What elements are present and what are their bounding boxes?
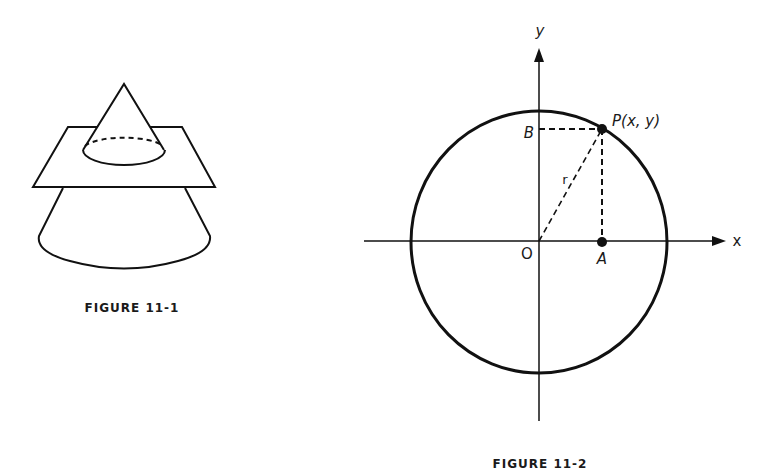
figure-11-2: y x O A B P(x, y) r FIGURE 11-2: [364, 22, 742, 471]
point-a-dot: [597, 237, 607, 247]
radius-label: r: [562, 172, 568, 187]
radius-line-op: [539, 129, 602, 241]
figure-caption: FIGURE 11-1: [85, 301, 180, 315]
point-p-label: P(x, y): [612, 112, 660, 130]
y-axis-label: y: [535, 22, 546, 40]
point-p-dot: [597, 124, 607, 134]
figure-11-1: FIGURE 11-1: [33, 84, 215, 315]
page-canvas: FIGURE 11-1 y x O A B P(x, y) r FIGURE 1…: [0, 0, 764, 471]
x-axis-arrow-icon: [712, 236, 726, 246]
point-a-label: A: [596, 250, 607, 268]
y-axis-arrow-icon: [534, 48, 544, 62]
figure-caption: FIGURE 11-2: [493, 457, 588, 471]
lower-cone-frustum: [39, 188, 210, 269]
x-axis-label: x: [733, 232, 742, 250]
point-b-label: B: [524, 124, 534, 142]
origin-label: O: [521, 245, 533, 263]
